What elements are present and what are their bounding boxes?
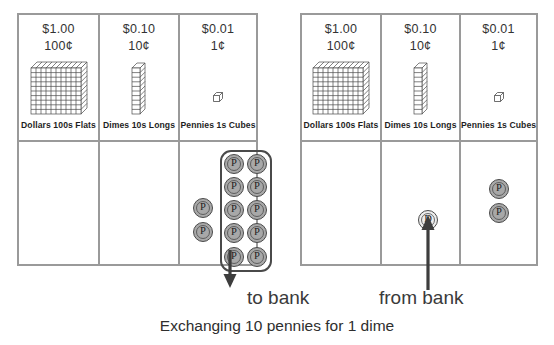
coin-letter: P bbox=[248, 178, 266, 196]
coin-letter: P bbox=[194, 199, 212, 217]
coin-letter: P bbox=[248, 155, 266, 173]
coin-penny[interactable]: P bbox=[247, 247, 267, 267]
denomination-cents: 100¢ bbox=[19, 39, 98, 53]
denomination-amount: $0.01 bbox=[180, 22, 256, 36]
coin-penny[interactable]: P bbox=[247, 177, 267, 197]
coin-penny[interactable]: P bbox=[224, 200, 244, 220]
coin-letter: P bbox=[248, 201, 266, 219]
block-label-dimes: Dimes 10s Longs bbox=[382, 120, 459, 130]
denomination-cents: 10¢ bbox=[100, 39, 178, 53]
flat-block-icon bbox=[19, 59, 98, 117]
coin-letter: P bbox=[225, 178, 243, 196]
denomination-amount: $1.00 bbox=[19, 22, 98, 36]
coin-letter: P bbox=[194, 223, 212, 241]
from-bank-label: from bank bbox=[379, 287, 463, 309]
denomination-cents: 10¢ bbox=[382, 39, 459, 53]
block-label-pennies: Pennies 1s Cubes bbox=[180, 120, 256, 130]
cube-block-icon bbox=[180, 91, 256, 105]
coin-letter: P bbox=[490, 204, 508, 222]
flat-block-icon bbox=[302, 59, 380, 117]
coin-penny[interactable]: P bbox=[224, 177, 244, 197]
denomination-cents: 1¢ bbox=[461, 39, 536, 53]
denomination-amount: $0.01 bbox=[461, 22, 536, 36]
coin-penny[interactable]: P bbox=[489, 179, 509, 199]
panel-to-bank: $1.00 100¢ bbox=[17, 13, 258, 266]
coin-letter: P bbox=[225, 224, 243, 242]
denomination-amount: $1.00 bbox=[302, 22, 380, 36]
coin-letter: P bbox=[225, 155, 243, 173]
coin-penny[interactable]: P bbox=[247, 223, 267, 243]
block-label-dimes: Dimes 10s Longs bbox=[100, 120, 178, 130]
denomination-cents: 1¢ bbox=[180, 39, 256, 53]
coin-penny[interactable]: P bbox=[224, 223, 244, 243]
coin-penny[interactable]: P bbox=[489, 203, 509, 223]
from-bank-arrow bbox=[416, 212, 440, 290]
coin-letter: P bbox=[490, 180, 508, 198]
coin-penny[interactable]: P bbox=[247, 154, 267, 174]
block-label-pennies: Pennies 1s Cubes bbox=[461, 120, 536, 130]
coin-penny[interactable]: P bbox=[193, 222, 213, 242]
block-label-dollars: Dollars 100s Flats bbox=[302, 120, 380, 130]
column-dollars: $1.00 100¢ Dollars 100s Flats bbox=[302, 15, 380, 264]
column-dollars: $1.00 100¢ bbox=[19, 15, 98, 264]
denomination-amount: $0.10 bbox=[100, 22, 178, 36]
coin-letter: P bbox=[248, 224, 266, 242]
long-block-icon bbox=[382, 59, 459, 117]
column-pennies: $0.01 1¢ Pennies 1s Cubes bbox=[461, 15, 536, 264]
figure-caption: Exchanging 10 pennies for 1 dime bbox=[0, 317, 554, 335]
to-bank-label: to bank bbox=[247, 287, 309, 309]
coin-letter: P bbox=[225, 201, 243, 219]
coin-penny[interactable]: P bbox=[247, 200, 267, 220]
cube-block-icon bbox=[461, 91, 536, 105]
coin-penny[interactable]: P bbox=[224, 154, 244, 174]
coin-penny[interactable]: P bbox=[193, 198, 213, 218]
long-block-icon bbox=[100, 59, 178, 117]
denomination-amount: $0.10 bbox=[382, 22, 459, 36]
column-dimes: $0.10 10¢ Dimes 10s Longs bbox=[100, 15, 178, 264]
block-label-dollars: Dollars 100s Flats bbox=[19, 120, 98, 130]
coin-letter: P bbox=[248, 248, 266, 266]
to-bank-arrow bbox=[218, 250, 242, 290]
denomination-cents: 100¢ bbox=[302, 39, 380, 53]
